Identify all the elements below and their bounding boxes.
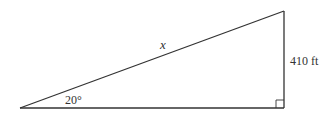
side-length-label: 410 ft xyxy=(290,54,319,68)
right-angle-marker xyxy=(276,100,284,108)
hypotenuse xyxy=(20,11,284,108)
triangle-diagram: x 20° 410 ft xyxy=(0,0,331,119)
angle-label: 20° xyxy=(65,93,82,107)
hypotenuse-label: x xyxy=(159,37,166,52)
